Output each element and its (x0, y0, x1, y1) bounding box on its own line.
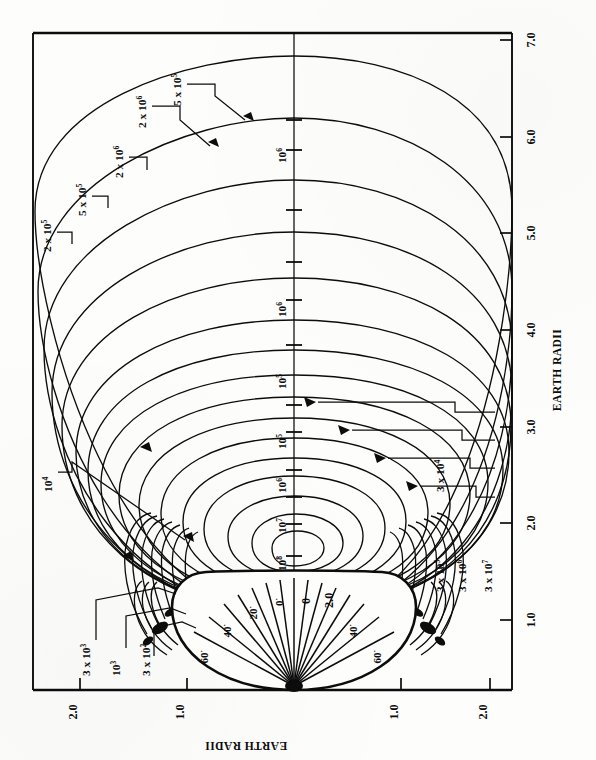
contour-labels-left: 104 3 x 103 103 3 x 102 (41, 477, 152, 676)
contour-label-right-1: 3 x 106 (455, 559, 468, 592)
haxis-tick-3: 4.0 (524, 322, 538, 337)
leader-arrowheads-outer (208, 112, 254, 147)
contour-label-outer-0: 2 x 105 (40, 219, 53, 252)
horizontal-axis-title: EARTH RADII (551, 329, 564, 411)
vaxis-tick-1: 1.0 (173, 704, 187, 719)
contour-labels-axis: 106 106 105 105 106 (275, 148, 288, 571)
vaxis-tick-0: 2.0 (66, 704, 80, 719)
vaxis-tick-3: 1.0 (387, 704, 401, 719)
axis-contour-label-2: 105 (275, 374, 288, 389)
inner-tick-two: 2.0 (322, 593, 336, 608)
earth-dipole-origin (285, 680, 303, 692)
contour-label-right-0: 3 x 107 (481, 559, 494, 592)
axis-contour-label-5: 107 (275, 518, 288, 533)
vertical-axis-tick-labels: 2.0 1.0 1.0 2.0 (66, 704, 490, 719)
contour-open-shells (35, 56, 512, 620)
axis-contour-label-1: 106 (275, 302, 288, 317)
contour-label-left-3: 3 x 102 (139, 643, 152, 676)
contour-label-left-0: 104 (41, 477, 54, 492)
axis-contour-label-3: 105 (275, 434, 288, 449)
vertical-axis-title: EARTH RADII (205, 739, 287, 752)
leader-arrowheads-right (304, 397, 418, 491)
contour-label-left-2: 103 (109, 661, 122, 676)
haxis-tick-2: 5.0 (524, 225, 538, 240)
contour-label-outer-1: 5 x 105 (75, 183, 88, 216)
contour-label-outer-2: 2 x 106 (112, 145, 125, 178)
contour-label-outer-4: 5 x 105 (170, 73, 183, 106)
inner-tick-zero: 0 (299, 598, 313, 604)
contour-label-right-3: 3 x 104 (433, 459, 446, 492)
figure-canvas: 2.0 1.0 1.0 2.0 EARTH RADII 7.0 6.0 5.0 … (0, 0, 596, 760)
horizontal-axis-tick-labels: 7.0 6.0 5.0 4.0 3.0 2.0 1.0 (524, 32, 538, 627)
haxis-tick-4: 3.0 (524, 419, 538, 434)
axis-contour-label-4: 106 (275, 478, 288, 493)
contour-open-5 (44, 180, 512, 616)
contour-label-right-2: 3 x 105 (433, 559, 446, 592)
vaxis-tick-4: 2.0 (476, 704, 490, 719)
haxis-tick-0: 7.0 (524, 32, 538, 47)
haxis-tick-5: 2.0 (524, 515, 538, 530)
haxis-tick-6: 1.0 (524, 612, 538, 627)
contour-figure: 2.0 1.0 1.0 2.0 EARTH RADII 7.0 6.0 5.0 … (0, 0, 596, 760)
contour-label-left-1: 3 x 103 (79, 643, 92, 676)
haxis-tick-1: 6.0 (524, 129, 538, 144)
leader-lines-outer (57, 84, 245, 244)
axis-contour-label-6: 108 (275, 556, 288, 571)
contour-shell-2 (252, 514, 343, 572)
contour-label-outer-3: 2 x 106 (135, 95, 148, 128)
